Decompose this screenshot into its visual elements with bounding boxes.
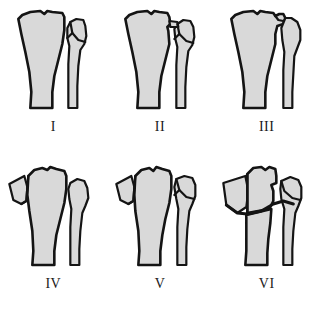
panel-type-3-label: III [259, 120, 275, 134]
panel-type-4: IV [0, 157, 107, 313]
tibial-plateau-fracture-figure: I II [0, 0, 320, 313]
panel-type-2: II [107, 0, 214, 157]
panel-type-3: III [213, 0, 320, 157]
panel-type-1-label: I [51, 120, 56, 134]
panel-type-5-illustration [107, 157, 214, 274]
panel-grid: I II [0, 0, 320, 313]
panel-type-2-label: II [155, 120, 165, 134]
panel-type-4-illustration [0, 157, 107, 274]
panel-type-4-label: IV [45, 277, 61, 291]
panel-type-3-illustration [213, 0, 320, 117]
panel-type-6-illustration [213, 157, 320, 274]
panel-type-6-label: VI [259, 277, 275, 291]
panel-type-2-illustration [107, 0, 214, 117]
panel-type-1-illustration [0, 0, 107, 117]
panel-type-6: VI [213, 157, 320, 313]
panel-type-5: V [107, 157, 214, 313]
panel-type-1: I [0, 0, 107, 157]
panel-type-5-label: V [155, 277, 166, 291]
